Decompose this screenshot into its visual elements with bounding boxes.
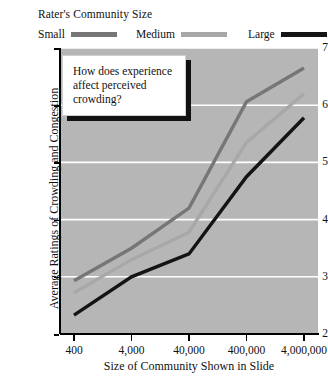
x-tick-label: 400: [65, 344, 82, 356]
y-tick-label: 3: [276, 271, 328, 283]
y-axis-title: Average Ratings of Crowding and Congesti…: [47, 59, 62, 339]
x-tick-mark: [246, 335, 248, 341]
annotation-box: How does experience affect perceived cro…: [62, 55, 186, 116]
legend-label-medium: Medium: [136, 26, 175, 42]
legend: Small Medium Large: [38, 26, 318, 42]
legend-swatch-medium: [181, 32, 227, 37]
x-tick-mark: [188, 335, 190, 341]
x-tick-mark: [303, 335, 305, 341]
x-tick-label: 400,000: [228, 344, 265, 356]
annotation-callout: How does experience affect perceived cro…: [62, 55, 186, 116]
x-tick-label: 4,000,000: [281, 344, 327, 356]
y-tick-label: 2: [276, 328, 328, 340]
x-tick-label: 40,000: [173, 344, 205, 356]
series-line-large: [74, 118, 304, 315]
x-axis-title: Size of Community Shown in Slide: [60, 359, 318, 374]
x-tick-mark: [131, 335, 133, 341]
x-tick-label: 4,000: [119, 344, 145, 356]
legend-item-small[interactable]: Small: [38, 26, 117, 42]
y-tick-mark: [54, 48, 59, 50]
y-tick-label: 5: [276, 156, 328, 168]
y-tick-label: 4: [276, 214, 328, 226]
legend-title: Rater's Community Size: [38, 8, 152, 20]
legend-swatch-large: [281, 32, 327, 37]
legend-label-small: Small: [38, 26, 65, 42]
x-tick-mark: [73, 335, 75, 341]
chart-figure: Rater's Community Size Small Medium Larg…: [0, 0, 328, 378]
legend-swatch-small: [71, 32, 117, 37]
legend-item-large[interactable]: Large: [248, 26, 327, 42]
y-tick-label: 7: [276, 42, 328, 54]
legend-label-large: Large: [248, 26, 275, 42]
y-tick-label: 6: [276, 99, 328, 111]
legend-item-medium[interactable]: Medium: [136, 26, 227, 42]
